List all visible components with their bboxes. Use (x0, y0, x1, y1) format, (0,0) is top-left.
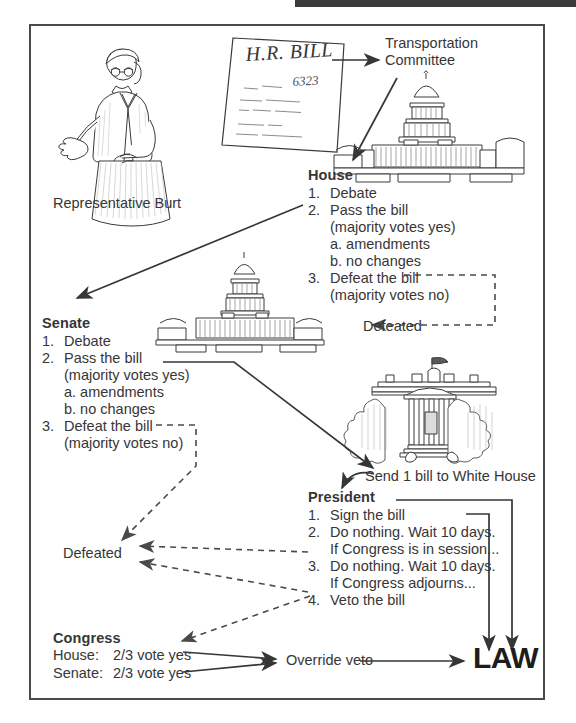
law-label: LAW (473, 641, 538, 676)
house-step-3-detail: (majority votes no) (330, 287, 449, 304)
page-header-bar (295, 0, 576, 7)
house-step-2a: a. amendments (330, 236, 430, 253)
house-step-3-text: Defeat the bill (330, 270, 419, 287)
president-step-2-text: Do nothing. Wait 10 days. (330, 524, 496, 541)
congress-heading: Congress (53, 630, 121, 647)
congress-senate-label: Senate: (53, 665, 103, 682)
senate-step-1-text: Debate (64, 333, 111, 350)
senate-step-3-text: Defeat the bill (64, 418, 153, 435)
president-step-2-detail: If Congress is in session... (330, 541, 499, 558)
senate-step-2-num: 2. (42, 350, 54, 367)
senate-step-2-detail: (majority votes yes) (64, 367, 190, 384)
send-bill-to-white-house-label: Send 1 bill to White House (365, 468, 536, 485)
president-step-3-detail: If Congress adjourns... (330, 575, 476, 592)
president-step-1-text: Sign the bill (330, 507, 405, 524)
senate-step-2b: b. no changes (64, 401, 155, 418)
override-veto-label: Override veto (286, 652, 373, 669)
senate-step-3-num: 3. (42, 418, 54, 435)
senate-step-2a: a. amendments (64, 384, 164, 401)
congress-house-requirement: 2/3 vote yes (113, 647, 191, 664)
senate-step-3-detail: (majority votes no) (64, 435, 183, 452)
house-step-2-detail: (majority votes yes) (330, 219, 456, 236)
bill-title-text: H.R. BILL (245, 38, 333, 66)
house-defeated-label: Defeated (363, 318, 422, 335)
president-step-3-num: 3. (308, 558, 320, 575)
president-step-4-text: Veto the bill (330, 592, 405, 609)
senate-defeated-label: Defeated (63, 545, 122, 562)
house-step-2-text: Pass the bill (330, 202, 408, 219)
house-heading: House (308, 167, 353, 184)
house-step-1-text: Debate (330, 185, 377, 202)
congress-senate-requirement: 2/3 vote yes (113, 665, 191, 682)
transportation-committee-line2: Committee (385, 52, 455, 69)
president-step-4-num: 4. (308, 592, 320, 609)
house-step-2b: b. no changes (330, 253, 421, 270)
house-step-1-num: 1. (308, 185, 320, 202)
bill-number-text: 6323 (292, 73, 319, 90)
president-step-2-num: 2. (308, 524, 320, 541)
president-step-3-text: Do nothing. Wait 10 days. (330, 558, 496, 575)
representative-caption: Representative Burt (53, 195, 181, 212)
house-step-2-num: 2. (308, 202, 320, 219)
transportation-committee-line1: Transportation (385, 35, 478, 52)
president-heading: President (308, 489, 375, 506)
diagram-canvas: Representative Burt H.R. BILL 6323 Trans… (0, 0, 576, 723)
senate-heading: Senate (42, 315, 90, 332)
senate-step-2-text: Pass the bill (64, 350, 142, 367)
congress-house-label: House: (53, 647, 99, 664)
house-step-3-num: 3. (308, 270, 320, 287)
president-step-1-num: 1. (308, 507, 320, 524)
senate-step-1-num: 1. (42, 333, 54, 350)
